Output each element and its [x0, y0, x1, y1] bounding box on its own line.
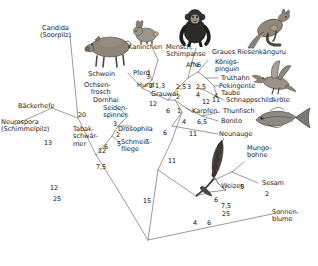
- taxon-label-sonnenblume: Sonnen- blume: [272, 209, 299, 224]
- branch-length: 6,5: [197, 119, 207, 126]
- branch-length: 4: [196, 92, 200, 99]
- branch-length: 13: [44, 140, 52, 147]
- branch-length: 4: [182, 119, 186, 126]
- taxon-label-kaninchen: Kaninchen: [128, 44, 162, 51]
- duck-illustration: [250, 56, 298, 98]
- branch-length: 11: [212, 97, 220, 104]
- taxon-label-kaenguru: Graues Riesenkänguru: [212, 49, 286, 56]
- taxon-label-koenigspinguin: Königs- pinguin: [215, 59, 239, 74]
- branch-length: 25: [222, 211, 230, 218]
- branch-length: 25: [53, 196, 61, 203]
- taxon-label-neurospora: Neurospora (Schimmelpilz): [1, 119, 49, 134]
- branch-length: 12: [202, 99, 210, 106]
- taxon-label-sesam: Sesam: [262, 180, 284, 187]
- branch-length: 20: [78, 112, 86, 119]
- taxon-label-bonito: Bonito: [221, 118, 242, 125]
- branch-length: 11: [189, 131, 197, 138]
- rabbit-illustration: [130, 19, 160, 45]
- taxon-label-schmeissfliege: Schmeiß- fliege: [121, 139, 152, 154]
- branch-length: 5: [117, 141, 121, 148]
- branch-length: 6: [166, 108, 170, 115]
- taxon-label-drosophila: Drosophila: [118, 126, 153, 133]
- taxon-label-schnappschildkroete: Schnappschildkröte: [226, 97, 290, 104]
- branch-length: 2: [265, 191, 269, 198]
- taxon-label-tabakschwaermer: Tabak- schwär- mer: [73, 126, 98, 148]
- taxon-label-thunfisch: Thunfisch: [223, 108, 255, 115]
- branch-length: 2: [116, 132, 120, 139]
- branch-length: 7,5: [96, 164, 106, 171]
- branch-length: 6: [163, 130, 167, 137]
- taxon-label-grauwal: Grauwal: [151, 91, 178, 98]
- branch-length: 6: [104, 144, 108, 151]
- branch-length: 5: [240, 184, 244, 191]
- taxon-label-seidenspinner: Seiden- spinner: [103, 105, 128, 120]
- taxon-label-neunauge: Neunauge: [219, 131, 252, 138]
- branch-length: 2,5: [196, 84, 206, 91]
- taxon-label-dornhai: Dornhai: [93, 97, 119, 104]
- kangaroo-illustration: [246, 6, 298, 52]
- branch-length: 2: [176, 94, 180, 101]
- chimpanzee-illustration: [175, 7, 215, 47]
- taxon-label-baeckerhefe: Bäckerhefe: [18, 103, 55, 110]
- branch-length: 1: [177, 108, 181, 115]
- tuna-illustration: [250, 104, 312, 136]
- branch-length: 2: [149, 83, 153, 90]
- branch-length: 11: [168, 158, 176, 165]
- branch-length: 12: [149, 101, 157, 108]
- phylogenetic-tree-figure: Candida (Soorpilz) Bäckerhefe Neurospora…: [0, 0, 318, 266]
- taxon-label-mensch-schimpanse: Mensch, Schimpanse: [166, 44, 206, 59]
- branch-length: 6: [197, 62, 201, 69]
- taxon-label-mungobohne: Mungo- bohne: [247, 145, 271, 160]
- branch-length: 6: [207, 220, 211, 227]
- taxon-label-karpfen: Karpfen: [192, 108, 217, 115]
- branch-length: 4: [193, 220, 197, 227]
- taxon-label-schwein: Schwein: [88, 71, 115, 78]
- branch-length: 3: [113, 121, 117, 128]
- branch-length: 1,3: [155, 83, 165, 90]
- branch-length: 3: [146, 74, 150, 81]
- branch-length: 3: [187, 84, 191, 91]
- taxon-label-candida: Candida (Soorpilz): [40, 25, 71, 40]
- wheat-illustration: [192, 138, 236, 202]
- branch-length: 2,5: [176, 84, 186, 91]
- branch-length: 7,5: [221, 203, 231, 210]
- branch-length: 12: [50, 185, 58, 192]
- taxon-label-ochsenfrosch: Ochsen- frosch: [84, 82, 111, 97]
- branch-length: 15: [143, 198, 151, 205]
- branch-length: 6: [214, 197, 218, 204]
